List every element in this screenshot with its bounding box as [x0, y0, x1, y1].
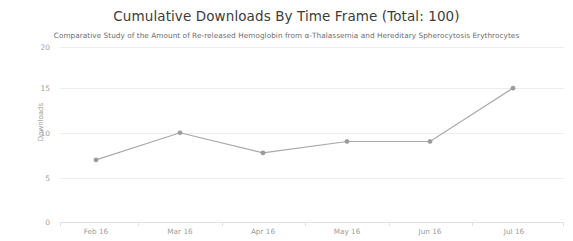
y-tick-label-5: 5: [20, 175, 50, 183]
y-tick-label-0: 0: [20, 219, 50, 227]
data-point[interactable]: [94, 158, 98, 162]
series-markers: [94, 86, 515, 162]
x-tick-label-apr: Apr 16: [233, 228, 293, 235]
y-tick-label-15: 15: [20, 85, 50, 93]
gridline-0: [60, 222, 564, 223]
chart-title: Cumulative Downloads By Time Frame (Tota…: [0, 8, 573, 24]
gridline-5: [60, 178, 564, 179]
gridline-10: [60, 133, 564, 134]
data-point[interactable]: [428, 139, 432, 143]
x-tick-mark-start: [60, 222, 61, 226]
x-tick-mark-1: [138, 222, 139, 226]
x-tick-label-jul: Jul 16: [484, 228, 544, 235]
x-tick-label-feb: Feb 16: [66, 228, 126, 235]
y-tick-label-20: 20: [20, 44, 50, 52]
y-tick-label-10: 10: [20, 130, 50, 138]
x-tick-mark-end: [563, 222, 564, 226]
gridline-15: [60, 88, 564, 89]
x-tick-label-jun: Jun 16: [400, 228, 460, 235]
series-line-downloads: [96, 88, 513, 160]
data-point[interactable]: [345, 139, 349, 143]
chart-subtitle: Comparative Study of the Amount of Re-re…: [0, 31, 573, 40]
x-tick-mark-4: [389, 222, 390, 226]
x-tick-label-may: May 16: [317, 228, 377, 235]
x-tick-mark-2: [222, 222, 223, 226]
x-tick-mark-5: [472, 222, 473, 226]
chart-container: Cumulative Downloads By Time Frame (Tota…: [0, 0, 573, 241]
data-point[interactable]: [261, 151, 265, 155]
x-tick-label-mar: Mar 16: [150, 228, 210, 235]
y-axis-title: Downloads: [37, 92, 45, 152]
gridline-20: [60, 47, 564, 48]
x-tick-mark-3: [305, 222, 306, 226]
